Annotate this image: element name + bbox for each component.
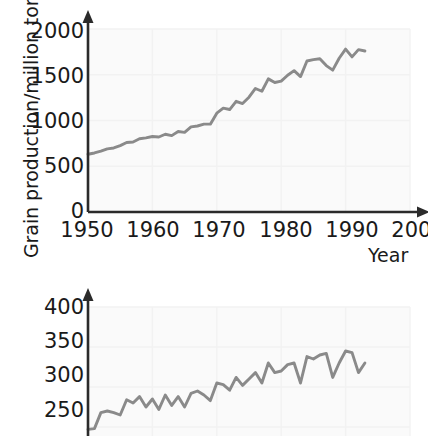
chart-canvas-top <box>0 0 428 268</box>
grain-production-figure: Grain production/million tonnes 2000 150… <box>0 0 428 436</box>
y-axis-arrowhead <box>83 10 94 23</box>
chart-canvas-bottom <box>0 268 428 436</box>
chart-panel-grain-production-total: Grain production/million tonnes 2000 150… <box>0 0 428 268</box>
chart-panel-grain-production-per-person: person/kilograms 400 350 300 250 <box>0 268 428 436</box>
x-axis-arrowhead <box>417 207 428 218</box>
y-axis-arrowhead <box>83 288 94 301</box>
plot-background <box>88 307 410 436</box>
